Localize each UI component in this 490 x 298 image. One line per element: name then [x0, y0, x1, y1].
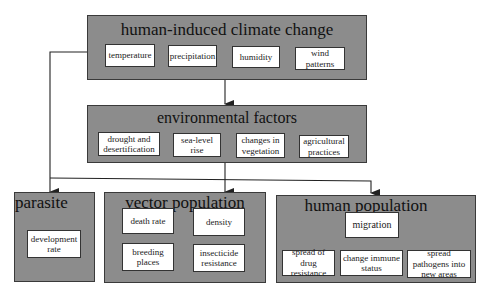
environmental-factors-group: environmental factors drought and desert…	[87, 105, 367, 163]
item-wind-patterns: wind patterns	[295, 47, 345, 70]
item-spread-drug-resistance: spread of drug resistance	[282, 250, 335, 276]
item-drought: drought and desertification	[98, 132, 160, 156]
item-migration: migration	[345, 212, 399, 238]
climate-change-title: human-induced climate change	[88, 21, 366, 38]
item-development-rate: development rate	[27, 230, 81, 258]
item-humidity: humidity	[232, 46, 280, 68]
item-vegetation: changes in vegetation	[236, 133, 285, 158]
vector-population-group: vector population death rate density bre…	[104, 192, 266, 283]
human-population-group: human population migration spread of dru…	[276, 195, 476, 283]
environmental-factors-title: environmental factors	[88, 110, 366, 126]
item-breeding-places: breeding places	[122, 243, 174, 271]
item-sea-level-rise: sea-level rise	[173, 133, 221, 157]
item-density: density	[193, 208, 245, 236]
item-spread-pathogens: spread pathogens into new areas	[407, 250, 471, 278]
item-death-rate: death rate	[122, 208, 174, 234]
parasite-group: parasite development rate	[14, 192, 95, 282]
item-temperature: temperature	[105, 44, 155, 67]
climate-change-group: human-induced climate change temperature…	[87, 15, 367, 80]
item-precipitation: precipitation	[168, 45, 217, 67]
parasite-title: parasite	[15, 194, 94, 211]
item-insecticide-resistance: insecticide resistance	[193, 244, 245, 272]
item-agricultural-practices: agricultural practices	[299, 135, 349, 158]
item-change-immune-status: change immune status	[340, 250, 403, 276]
